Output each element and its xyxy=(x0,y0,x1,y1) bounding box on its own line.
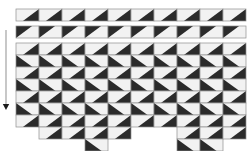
pattern-cell xyxy=(39,26,62,38)
pattern-cell xyxy=(85,91,108,103)
pattern-cell xyxy=(177,79,200,91)
pattern-cell xyxy=(200,26,223,38)
pattern-cell xyxy=(131,67,154,79)
pattern-cell xyxy=(223,9,246,21)
pattern-cell xyxy=(85,55,108,67)
pattern-cell xyxy=(85,139,108,151)
pattern-cell xyxy=(131,43,154,55)
strip-top-1 xyxy=(16,9,246,21)
pattern-cell xyxy=(16,79,39,91)
pattern-cell xyxy=(154,9,177,21)
pattern-cell xyxy=(39,79,62,91)
pattern-cell xyxy=(16,91,39,103)
pattern-cell xyxy=(200,67,223,79)
pattern-cell xyxy=(177,26,200,38)
pattern-cell xyxy=(16,115,39,127)
pattern-cell xyxy=(200,139,223,151)
pattern-cell xyxy=(154,67,177,79)
pattern-cell xyxy=(16,26,39,38)
pattern-cell xyxy=(223,127,246,139)
pattern-cell xyxy=(108,67,131,79)
pattern-cell xyxy=(223,67,246,79)
arrow-head-icon xyxy=(3,104,9,110)
pattern-cell xyxy=(85,26,108,38)
pattern-cell xyxy=(16,43,39,55)
main-grid xyxy=(16,43,246,151)
pattern-cell xyxy=(39,43,62,55)
pattern-cell xyxy=(131,103,154,115)
pattern-cell xyxy=(85,43,108,55)
pattern-cell xyxy=(131,79,154,91)
pattern-cell xyxy=(223,43,246,55)
pattern-canvas xyxy=(0,0,252,151)
pattern-cell xyxy=(39,127,62,139)
pattern-cell xyxy=(177,43,200,55)
pattern-cell xyxy=(131,55,154,67)
pattern-cell xyxy=(200,9,223,21)
pattern-cell xyxy=(108,127,131,139)
pattern-cell xyxy=(62,43,85,55)
pattern-cell xyxy=(154,103,177,115)
pattern-cell xyxy=(223,79,246,91)
pattern-cell xyxy=(200,43,223,55)
pattern-cell xyxy=(154,26,177,38)
pattern-cell xyxy=(85,115,108,127)
pattern-cell xyxy=(85,67,108,79)
pattern-cell xyxy=(62,91,85,103)
pattern-cell xyxy=(131,9,154,21)
pattern-cell xyxy=(200,91,223,103)
pattern-cell xyxy=(108,9,131,21)
pattern-cell xyxy=(200,103,223,115)
pattern-cell xyxy=(108,103,131,115)
pattern-cell xyxy=(223,103,246,115)
pattern-cell xyxy=(177,115,200,127)
pattern-cell xyxy=(39,91,62,103)
pattern-cell xyxy=(108,43,131,55)
pattern-cell xyxy=(223,115,246,127)
strip-top-2 xyxy=(16,26,246,38)
pattern-cell xyxy=(200,55,223,67)
pattern-cell xyxy=(177,127,200,139)
pattern-cell xyxy=(62,26,85,38)
pattern-cell xyxy=(108,55,131,67)
pattern-cell xyxy=(85,79,108,91)
pattern-cell xyxy=(223,26,246,38)
pattern-cell xyxy=(16,55,39,67)
pattern-cell xyxy=(108,79,131,91)
pattern-cell xyxy=(177,91,200,103)
pattern-cell xyxy=(177,139,200,151)
pattern-cell xyxy=(154,115,177,127)
pattern-cell xyxy=(62,67,85,79)
pattern-cell xyxy=(16,67,39,79)
pattern-cell xyxy=(131,26,154,38)
pattern-cell xyxy=(108,26,131,38)
pattern-cell xyxy=(39,67,62,79)
pattern-cell xyxy=(177,103,200,115)
pattern-cell xyxy=(154,79,177,91)
pattern-cell xyxy=(131,91,154,103)
pattern-cell xyxy=(62,127,85,139)
pattern-cell xyxy=(16,9,39,21)
pattern-cell xyxy=(154,91,177,103)
pattern-cell xyxy=(62,9,85,21)
pattern-figure xyxy=(0,0,252,151)
down-arrow xyxy=(3,30,9,110)
pattern-cell xyxy=(85,9,108,21)
pattern-cell xyxy=(85,127,108,139)
pattern-cell xyxy=(62,79,85,91)
pattern-cell xyxy=(154,55,177,67)
pattern-cell xyxy=(39,103,62,115)
pattern-cell xyxy=(62,103,85,115)
pattern-cell xyxy=(154,43,177,55)
pattern-cell xyxy=(39,55,62,67)
pattern-cell xyxy=(200,115,223,127)
pattern-cell xyxy=(200,127,223,139)
pattern-cell xyxy=(223,91,246,103)
pattern-cell xyxy=(200,79,223,91)
pattern-cell xyxy=(177,55,200,67)
pattern-cell xyxy=(39,9,62,21)
pattern-cell xyxy=(108,115,131,127)
pattern-cell xyxy=(108,91,131,103)
pattern-cell xyxy=(16,103,39,115)
pattern-cell xyxy=(62,115,85,127)
